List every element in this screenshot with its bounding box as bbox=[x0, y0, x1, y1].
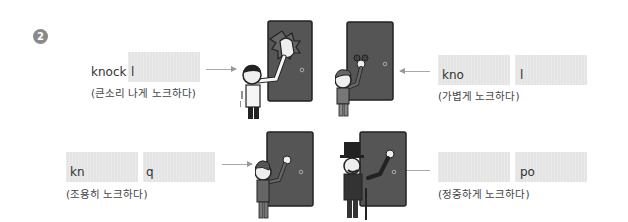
illustration-loud-knock-icon bbox=[240, 15, 320, 120]
illustration-light-knock-icon bbox=[335, 18, 415, 118]
arrow-right-icon bbox=[206, 69, 236, 70]
answer-blank-1a[interactable] bbox=[128, 52, 200, 82]
prompt-word: knock bbox=[91, 65, 126, 79]
korean-gloss: (정중하게 노크하다) bbox=[438, 186, 530, 201]
prompt-letter: l bbox=[131, 65, 134, 79]
answer-blank-3b[interactable] bbox=[143, 152, 215, 182]
exercise-number-badge: 2 bbox=[33, 29, 48, 44]
answer-blank-2b[interactable] bbox=[515, 55, 587, 85]
answer-blank-4a[interactable] bbox=[438, 152, 510, 182]
illustration-quiet-knock-icon bbox=[255, 130, 325, 222]
prompt-letter: l bbox=[520, 68, 523, 82]
prompt-letter: po bbox=[520, 165, 535, 179]
prompt-word: kno bbox=[442, 68, 464, 82]
illustration-polite-knock-icon bbox=[338, 128, 418, 222]
korean-gloss: (조용히 노크하다) bbox=[66, 186, 148, 201]
arrow-right-icon bbox=[222, 164, 252, 165]
korean-gloss: (가볍게 노크하다) bbox=[438, 88, 520, 103]
prompt-word: kn bbox=[70, 165, 85, 179]
prompt-letter: q bbox=[146, 165, 154, 179]
korean-gloss: (큰소리 나게 노크하다) bbox=[91, 85, 196, 100]
